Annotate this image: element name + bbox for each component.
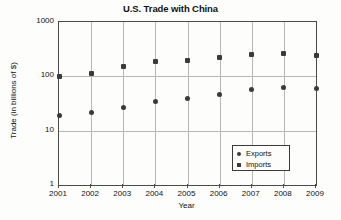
data-point-imports <box>314 53 319 58</box>
y-axis-tick-label: 1 <box>14 180 54 188</box>
data-point-imports <box>153 59 158 64</box>
data-point-exports <box>217 92 222 97</box>
circle-marker-icon <box>237 152 241 156</box>
x-axis-title: Year <box>58 201 315 210</box>
data-point-imports <box>185 58 190 63</box>
data-point-imports <box>249 52 254 57</box>
legend-item-label: Imports <box>246 160 271 169</box>
chart-title: U.S. Trade with China <box>0 3 341 14</box>
x-axis-tick-label: 2003 <box>105 189 139 198</box>
data-point-exports <box>57 113 62 118</box>
legend-item-label: Exports <box>246 149 271 158</box>
data-point-exports <box>281 85 286 90</box>
chart-legend: ExportsImports <box>232 145 290 171</box>
x-axis-tick-label: 2001 <box>41 189 75 198</box>
x-axis-tick-label: 2008 <box>266 189 300 198</box>
data-point-exports <box>314 86 319 91</box>
data-point-imports <box>121 64 126 69</box>
data-point-imports <box>57 74 62 79</box>
data-point-exports <box>89 110 94 115</box>
y-axis-title: Trade (in billions of $) <box>9 26 18 176</box>
data-point-imports <box>89 71 94 76</box>
x-axis-tick-label: 2006 <box>202 189 236 198</box>
y-axis-tick-label: 100 <box>14 71 54 79</box>
square-marker-icon <box>237 163 241 167</box>
gridline-vertical <box>91 22 92 185</box>
chart-screenshot: U.S. Trade with China Trade (in billions… <box>0 0 341 220</box>
x-axis-tick-label: 2002 <box>73 189 107 198</box>
data-point-exports <box>121 105 126 110</box>
data-point-exports <box>249 87 254 92</box>
x-axis-tick-label: 2004 <box>137 189 171 198</box>
x-axis-tick-label: 2007 <box>234 189 268 198</box>
y-axis-tick-label: 1000 <box>14 17 54 25</box>
gridline-vertical <box>220 22 221 185</box>
gridline-vertical <box>123 22 124 185</box>
x-axis-tick-label: 2005 <box>170 189 204 198</box>
legend-item-imports: Imports <box>237 159 286 170</box>
x-axis-tick-label: 2009 <box>298 189 332 198</box>
data-point-exports <box>153 99 158 104</box>
y-axis-tick-label: 10 <box>14 126 54 134</box>
gridline-vertical <box>188 22 189 185</box>
data-point-imports <box>281 51 286 56</box>
legend-item-exports: Exports <box>237 148 286 159</box>
data-point-imports <box>217 55 222 60</box>
data-point-exports <box>185 96 190 101</box>
